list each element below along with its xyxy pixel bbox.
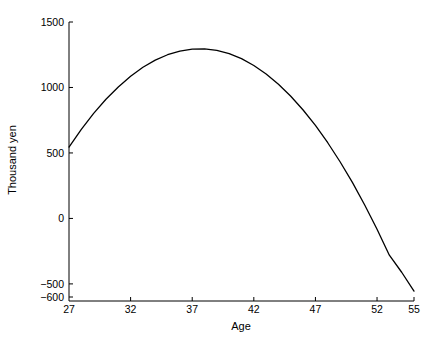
- x-tick-label: 42: [248, 304, 260, 315]
- y-tick-label: −500: [18, 278, 64, 289]
- y-tick-label: 500: [18, 147, 64, 158]
- y-axis-title: Thousand yen: [6, 125, 18, 195]
- x-tick-label: 55: [408, 304, 420, 315]
- y-tick-label: 1500: [18, 17, 64, 28]
- y-tick-label: 0: [18, 213, 64, 224]
- chart-figure: −600−500050010001500 27323742475255 Age …: [0, 0, 436, 346]
- y-axis-ticks: [69, 22, 73, 297]
- x-tick-label: 52: [371, 304, 383, 315]
- plot-area: [0, 0, 436, 346]
- x-axis-ticks: [69, 297, 414, 301]
- y-tick-label: −600: [18, 292, 64, 303]
- data-series-line: [69, 49, 414, 291]
- x-tick-label: 37: [186, 304, 198, 315]
- x-tick-label: 47: [310, 304, 322, 315]
- x-tick-label: 27: [63, 304, 75, 315]
- x-axis-title: Age: [231, 320, 251, 332]
- x-tick-label: 32: [125, 304, 137, 315]
- y-tick-label: 1000: [18, 82, 64, 93]
